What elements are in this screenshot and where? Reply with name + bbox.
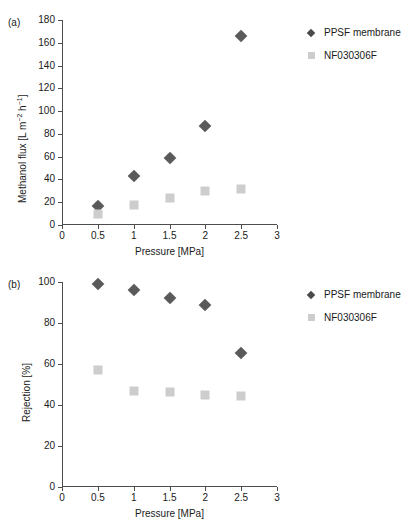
x-tick-label: 1	[131, 231, 137, 241]
x-axis-label-b: Pressure [MPa]	[62, 509, 277, 519]
y-tick-label: 180	[38, 15, 55, 25]
y-tick-mark	[58, 202, 62, 203]
data-point	[93, 366, 102, 375]
x-tick-label: 0	[59, 493, 65, 503]
y-tick-label: 40	[44, 400, 55, 410]
data-point	[127, 170, 140, 183]
y-tick-label: 80	[44, 129, 55, 139]
y-tick-mark	[58, 43, 62, 44]
y-tick-label: 20	[44, 197, 55, 207]
legend-b: PPSF membrane NF030306F	[305, 290, 401, 336]
x-tick-mark	[241, 225, 242, 229]
data-point	[235, 30, 248, 43]
data-point	[237, 184, 246, 193]
y-axis-line-a	[62, 20, 63, 225]
y-tick-mark	[58, 446, 62, 447]
square-marker-icon	[305, 313, 317, 323]
data-point	[163, 292, 176, 305]
legend-item-nf-b: NF030306F	[305, 313, 401, 323]
y-tick-mark	[58, 364, 62, 365]
y-tick-label: 80	[44, 318, 55, 328]
y-axis-label-a: Methanol flux [L m−2 h−1]	[18, 95, 28, 203]
x-tick-mark	[277, 225, 278, 229]
x-tick-mark	[170, 225, 171, 229]
x-axis-label-a: Pressure [MPa]	[62, 247, 277, 257]
y-axis-line-b	[62, 282, 63, 487]
y-tick-label: 20	[44, 441, 55, 451]
y-tick-mark	[58, 66, 62, 67]
x-tick-label: 2	[203, 493, 209, 503]
data-point	[163, 151, 176, 164]
y-tick-label: 60	[44, 152, 55, 162]
x-tick-label: 2.5	[234, 493, 248, 503]
y-tick-mark	[58, 179, 62, 180]
diamond-marker-icon	[305, 28, 317, 38]
chart-panel-a: (a) 020406080100120140160180 00.511.522.…	[0, 0, 413, 262]
data-point	[237, 391, 246, 400]
x-tick-label: 2.5	[234, 231, 248, 241]
legend-label-ppsf-a: PPSF membrane	[324, 28, 401, 38]
x-tick-label: 1.5	[163, 493, 177, 503]
x-tick-label: 3	[274, 493, 280, 503]
data-point	[235, 346, 248, 359]
data-point	[201, 390, 210, 399]
square-marker-icon	[305, 51, 317, 61]
y-tick-mark	[58, 323, 62, 324]
y-tick-mark	[58, 405, 62, 406]
plot-area-a: 020406080100120140160180 00.511.522.53 P…	[62, 20, 277, 225]
panel-label-b: (b)	[8, 280, 20, 290]
legend-item-ppsf-a: PPSF membrane	[305, 28, 401, 38]
x-tick-label: 2	[203, 231, 209, 241]
y-tick-label: 60	[44, 359, 55, 369]
data-point	[165, 193, 174, 202]
y-tick-label: 160	[38, 38, 55, 48]
data-point	[201, 186, 210, 195]
x-tick-label: 1.5	[163, 231, 177, 241]
y-tick-label: 100	[38, 106, 55, 116]
panel-label-a: (a)	[8, 18, 20, 28]
x-tick-mark	[134, 225, 135, 229]
legend-label-ppsf-b: PPSF membrane	[324, 290, 401, 300]
plot-area-b: 020406080100 00.511.522.53 Pressure [MPa…	[62, 282, 277, 487]
x-tick-label: 0	[59, 231, 65, 241]
y-tick-label: 140	[38, 61, 55, 71]
y-tick-label: 40	[44, 174, 55, 184]
y-tick-label: 100	[38, 277, 55, 287]
y-tick-mark	[58, 88, 62, 89]
y-tick-mark	[58, 20, 62, 21]
x-tick-mark	[205, 225, 206, 229]
x-tick-mark	[62, 225, 63, 229]
data-point	[93, 209, 102, 218]
legend-a: PPSF membrane NF030306F	[305, 28, 401, 74]
x-tick-mark	[241, 487, 242, 491]
y-tick-mark	[58, 111, 62, 112]
data-point	[91, 278, 104, 291]
y-tick-label: 120	[38, 83, 55, 93]
data-point	[199, 120, 212, 133]
x-tick-mark	[62, 487, 63, 491]
data-point	[129, 386, 138, 395]
x-tick-mark	[205, 487, 206, 491]
x-tick-label: 0.5	[91, 231, 105, 241]
legend-label-nf-a: NF030306F	[324, 51, 377, 61]
y-tick-label: 0	[49, 220, 55, 230]
x-tick-label: 3	[274, 231, 280, 241]
data-point	[165, 387, 174, 396]
y-tick-mark	[58, 157, 62, 158]
y-tick-mark	[58, 134, 62, 135]
x-tick-label: 1	[131, 493, 137, 503]
y-axis-label-b: Rejection [%]	[22, 363, 32, 422]
data-point	[199, 298, 212, 311]
diamond-marker-icon	[305, 290, 317, 300]
y-tick-mark	[58, 282, 62, 283]
x-tick-mark	[134, 487, 135, 491]
chart-panel-b: (b) 020406080100 00.511.522.53 Pressure …	[0, 262, 413, 524]
x-tick-mark	[170, 487, 171, 491]
legend-label-nf-b: NF030306F	[324, 313, 377, 323]
x-tick-mark	[277, 487, 278, 491]
x-tick-label: 0.5	[91, 493, 105, 503]
x-tick-mark	[98, 225, 99, 229]
legend-item-ppsf-b: PPSF membrane	[305, 290, 401, 300]
x-tick-mark	[98, 487, 99, 491]
figure-container: (a) 020406080100120140160180 00.511.522.…	[0, 0, 413, 525]
